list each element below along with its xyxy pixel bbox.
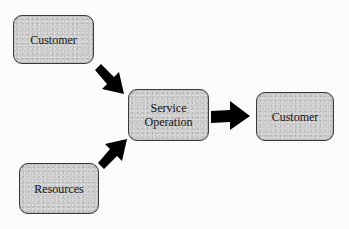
arrow-service-to-customer-icon <box>211 101 250 130</box>
node-label: Customer <box>30 33 77 47</box>
diagram-canvas: Customer Service Operation Customer Reso… <box>0 0 349 229</box>
node-label: Customer <box>272 110 319 124</box>
node-service-operation: Service Operation <box>128 89 209 141</box>
node-label: Resources <box>34 182 83 196</box>
node-label-line-2: Operation <box>145 115 193 129</box>
node-label-line-1: Service <box>145 101 193 115</box>
arrow-resources-to-service-icon <box>98 139 127 169</box>
arrow-customer-to-service-icon <box>95 64 124 94</box>
node-customer-input: Customer <box>13 15 94 64</box>
node-customer-output: Customer <box>256 92 334 141</box>
node-label-group: Service Operation <box>145 101 193 129</box>
node-resources: Resources <box>19 163 99 214</box>
